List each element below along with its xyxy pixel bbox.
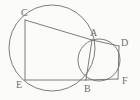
- segment-AD: [92, 40, 119, 46]
- vertex-label-c: C: [21, 8, 28, 18]
- vertex-label-d: D: [121, 38, 128, 48]
- segments-group: [25, 20, 119, 80]
- vertex-label-b: B: [84, 84, 91, 94]
- small-circle: [78, 39, 120, 81]
- geometry-figure: C A D E B F: [0, 0, 140, 100]
- segment-CA: [25, 20, 92, 40]
- segment-AB: [86, 40, 92, 80]
- vertex-label-f: F: [122, 76, 128, 86]
- vertex-label-a: A: [90, 28, 97, 38]
- vertex-label-e: E: [16, 80, 22, 90]
